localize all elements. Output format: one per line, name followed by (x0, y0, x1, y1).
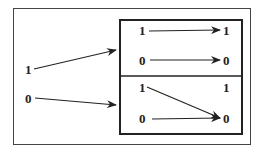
arrow-bottom-1-to-0 (147, 87, 220, 118)
input-label-0: 0 (25, 91, 32, 106)
arrow-top-1-to-1 (149, 30, 220, 31)
channel-diagram: 1 0 1 0 1 0 1 0 1 0 (0, 0, 263, 153)
arrow-input1-to-top (34, 50, 116, 69)
arrow-input0-to-bottom (35, 98, 116, 105)
bottom-left-0: 0 (139, 111, 146, 126)
input-label-1: 1 (25, 62, 32, 77)
arrow-bottom-0-to-0 (152, 118, 220, 119)
top-right-1: 1 (223, 23, 230, 38)
bottom-left-1: 1 (139, 80, 146, 95)
bottom-right-0: 0 (223, 111, 230, 126)
top-left-1: 1 (139, 23, 146, 38)
bottom-right-1: 1 (223, 80, 230, 95)
top-right-0: 0 (223, 53, 230, 68)
top-left-0: 0 (139, 53, 146, 68)
